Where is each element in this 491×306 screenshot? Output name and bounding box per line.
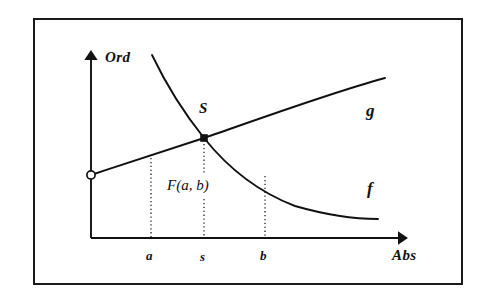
- abscissa-axis-label: Abs: [392, 248, 417, 263]
- tick-label-s: s: [200, 250, 205, 263]
- tick-label-a: a: [146, 249, 153, 262]
- curve-label-g: g: [366, 102, 375, 119]
- intersection-point-label: S: [199, 101, 207, 116]
- open-circle-marker: [87, 171, 95, 179]
- curve-label-f: f: [367, 180, 373, 197]
- intersection-point: [200, 134, 208, 142]
- curve-g: [91, 78, 385, 175]
- figure-canvas: Ord Abs g f S F(a, b) a s b: [0, 0, 491, 306]
- fixed-point-label: F(a, b): [167, 178, 209, 193]
- tick-label-b: b: [260, 249, 267, 262]
- ordinate-axis-label: Ord: [105, 50, 130, 65]
- curve-f: [152, 55, 378, 219]
- diagram-graphics: [0, 0, 491, 306]
